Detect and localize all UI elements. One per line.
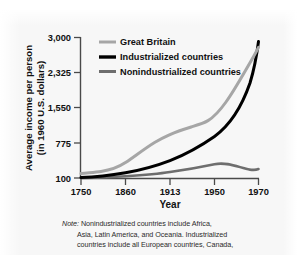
note-label: Note: [62, 219, 79, 228]
note-line-3: countries include all European countries… [62, 240, 297, 251]
y-tick-label-3000: 3,000 [48, 33, 71, 43]
y-tick-label-100: 100 [55, 174, 71, 184]
line-chart: 3,000 2,325 1,550 775 100 1750 1860 1913… [0, 0, 297, 255]
note-line-2: Asia, Latin America, and Oceania. Indust… [62, 230, 297, 241]
y-tick-label-775: 775 [55, 139, 71, 149]
x-tick-label-1950: 1950 [204, 187, 225, 197]
x-axis-ticks [81, 179, 259, 186]
y-tick-label-2325: 2,325 [48, 68, 71, 78]
x-tick-label-1970: 1970 [248, 187, 269, 197]
y-tick-label-1550: 1,550 [48, 103, 71, 113]
y-tick-labels: 3,000 2,325 1,550 775 100 [48, 33, 71, 184]
x-tick-labels: 1750 1860 1913 1950 1970 [71, 187, 269, 197]
note-line-1: Note: Nonindustrialized countries includ… [62, 219, 297, 230]
legend-label-industrialized-countries: Industrialized countries [120, 52, 223, 62]
y-axis-title-line2: (in 1960 U.S. dollars) [35, 61, 46, 155]
y-axis-ticks [74, 38, 81, 179]
x-tick-label-1750: 1750 [71, 187, 92, 197]
y-axis-title-line1: Average income per person [23, 45, 34, 171]
chart-figure: 3,000 2,325 1,550 775 100 1750 1860 1913… [0, 0, 297, 255]
x-axis-title: Year [159, 199, 180, 210]
legend-label-great-britain: Great Britain [120, 37, 176, 47]
note-text-1: Nonindustrialized countries include Afri… [81, 219, 212, 228]
x-tick-label-1860: 1860 [115, 187, 136, 197]
x-tick-label-1913: 1913 [160, 187, 181, 197]
chart-note: Note: Nonindustrialized countries includ… [62, 219, 297, 251]
chart-legend: Great Britain Industrialized countries N… [99, 37, 241, 77]
legend-label-nonindustrialized-countries: Nonindustrialized countries [120, 67, 241, 77]
